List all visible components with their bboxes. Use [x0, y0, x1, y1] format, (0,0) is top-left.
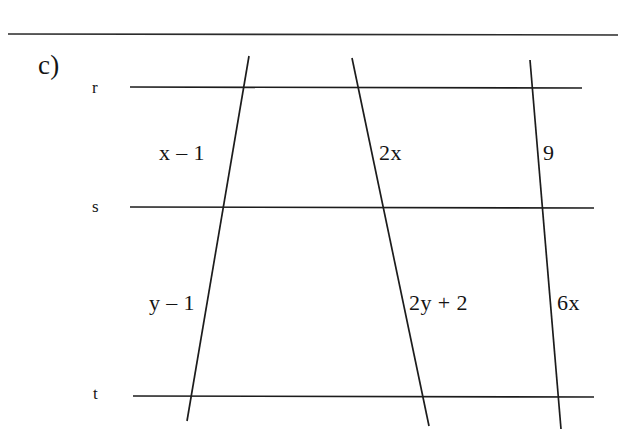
transversal-right — [530, 60, 561, 429]
figure-page: c) r s t x – 1 2x 9 y – 1 2y + 2 6x — [0, 0, 624, 440]
transversal-middle — [352, 58, 429, 426]
geometry-figure — [0, 0, 624, 440]
page-divider-rule — [8, 34, 618, 35]
parallel-line-t — [133, 396, 594, 397]
segment-label-right-upper: 9 — [543, 142, 554, 164]
parallel-line-r — [130, 87, 582, 88]
parallel-line-label-s: s — [92, 198, 99, 215]
segment-label-middle-lower: 2y + 2 — [409, 292, 468, 314]
parallel-line-label-r: r — [92, 79, 98, 96]
parallel-line-s — [130, 207, 594, 208]
problem-label: c) — [38, 52, 59, 79]
transversal-left — [187, 56, 249, 421]
segment-label-middle-upper: 2x — [379, 142, 402, 164]
segment-label-right-lower: 6x — [557, 292, 580, 314]
parallel-line-label-t: t — [93, 385, 98, 402]
segment-label-left-upper: x – 1 — [159, 142, 205, 164]
segment-label-left-lower: y – 1 — [149, 292, 195, 314]
